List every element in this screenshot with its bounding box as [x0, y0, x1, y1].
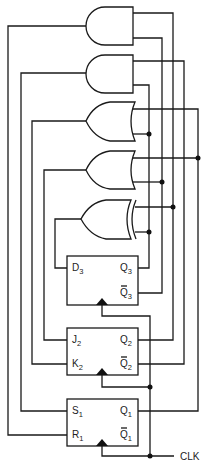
wire-q1	[133, 109, 198, 411]
wire-clk-ff2	[102, 375, 150, 387]
and-gate-1	[86, 7, 133, 45]
junction-dot	[171, 205, 176, 210]
wire-or2-to-j2	[44, 170, 86, 340]
junction-dot	[148, 454, 153, 459]
and-gate-2	[86, 55, 133, 93]
junction-dot	[147, 132, 152, 137]
wire-q2bar	[133, 61, 184, 364]
wire-clk-ff1	[102, 446, 174, 456]
junction-dot	[147, 230, 152, 235]
circuit-diagram: D3 Q3 Q3 J2 K2 Q2 Q2 S1 R1 Q1 Q1 CLK	[0, 0, 210, 462]
xor-gate-extra-arc	[132, 200, 136, 239]
clk-label: CLK	[180, 451, 200, 462]
or-gate-1	[86, 102, 135, 141]
junction-dot	[160, 180, 165, 185]
wire-q3bar	[133, 38, 162, 293]
junction-dot	[196, 156, 201, 161]
xor-gate	[81, 200, 131, 239]
junction-dot	[148, 385, 153, 390]
wire-q3	[133, 85, 149, 268]
wire-q2	[133, 13, 173, 340]
or-gate-2	[86, 151, 135, 189]
